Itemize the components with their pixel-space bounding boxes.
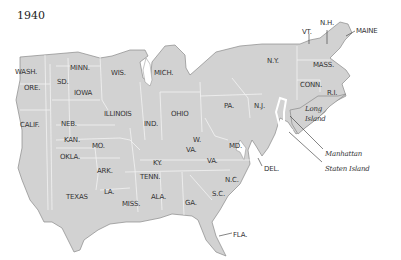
state-label: S.C. [212,191,225,198]
state-label: OKLA. [60,154,80,161]
place-label: Manhattan [325,151,362,158]
state-label: MASS. [313,62,334,69]
state-label: OHIO [171,111,189,118]
state-label: MAINE [356,28,378,35]
state-label: IND. [144,121,158,128]
state-label: SD. [57,79,68,86]
state-label: ALA. [151,194,166,201]
state-label: W. [193,137,201,144]
state-label: N.C. [225,177,239,184]
state-label: LA. [104,189,114,196]
state-label: KAN. [64,137,80,144]
state-label: PA. [224,103,234,110]
state-label: VA. [207,158,218,165]
state-label: R.I. [327,90,337,97]
state-label: ILLINOIS [104,111,132,118]
state-label: WASH. [15,69,37,76]
state-label: WIS. [111,70,126,77]
state-label: MD. [229,143,242,150]
place-label: Long Island [305,104,329,124]
state-label: MINN. [70,65,90,72]
state-label: MO. [92,143,105,150]
state-label: TENN. [140,174,160,181]
us-map [0,0,401,260]
state-label: GA. [185,200,197,207]
state-label: MISS. [122,201,140,208]
state-label: N.Y. [267,58,279,65]
state-label: NEB. [61,121,77,128]
map-year-title: 1940 [17,9,45,22]
state-label: ORE. [24,85,40,92]
state-label: TEXAS [66,194,88,201]
place-label: Staten Island [325,166,370,173]
state-label: ARK. [97,168,113,175]
state-label: CONN. [300,82,322,89]
state-label: N.H. [320,20,334,27]
state-label: VA. [186,147,197,154]
state-label: CALIF. [20,122,40,129]
state-label: DEL. [264,166,279,173]
state-label: VT. [302,29,312,36]
state-label: IOWA [74,90,92,97]
state-label: FLA. [233,232,247,239]
state-label: MICH. [154,70,173,77]
state-label: N.J. [254,103,265,110]
state-label: KY. [153,160,162,167]
